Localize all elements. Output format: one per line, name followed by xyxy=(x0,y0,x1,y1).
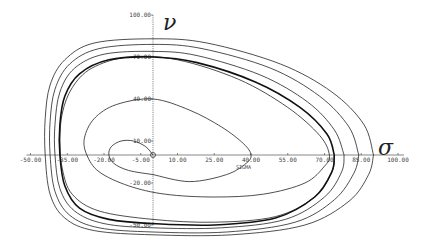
x-tick-label: 55.00 xyxy=(279,156,297,163)
trajectory-mid-loop xyxy=(60,56,334,222)
x-tick-label: 10.00 xyxy=(168,156,186,163)
phase-plot: -50.00-35.00-20.00-5.0010.0025.0040.0055… xyxy=(0,0,427,243)
x-tick-label: 25.00 xyxy=(205,156,223,163)
y-axis-symbol: ν xyxy=(163,10,176,35)
curves xyxy=(45,39,374,236)
trajectory-outer-1 xyxy=(54,51,344,228)
y-ticks: 100.0070.0040.0010.00-20.00-50.00 xyxy=(129,11,153,228)
y-tick-label: 100.00 xyxy=(129,11,151,18)
y-tick-label: 10.00 xyxy=(133,137,151,144)
limit-cycle xyxy=(59,57,334,225)
x-ticks: -50.00-35.00-20.00-5.0010.0025.0040.0055… xyxy=(20,153,410,163)
y-tick-label: -20.00 xyxy=(129,179,151,186)
x-tick-label: -50.00 xyxy=(20,156,42,163)
trajectory-outer-2 xyxy=(49,44,358,233)
x-tick-label: 85.00 xyxy=(352,156,370,163)
x-axis-label: SIGMA xyxy=(236,164,251,170)
x-axis-symbol: σ xyxy=(378,135,394,160)
x-tick-label: 70.00 xyxy=(315,156,333,163)
x-tick-label: -5.00 xyxy=(132,156,150,163)
